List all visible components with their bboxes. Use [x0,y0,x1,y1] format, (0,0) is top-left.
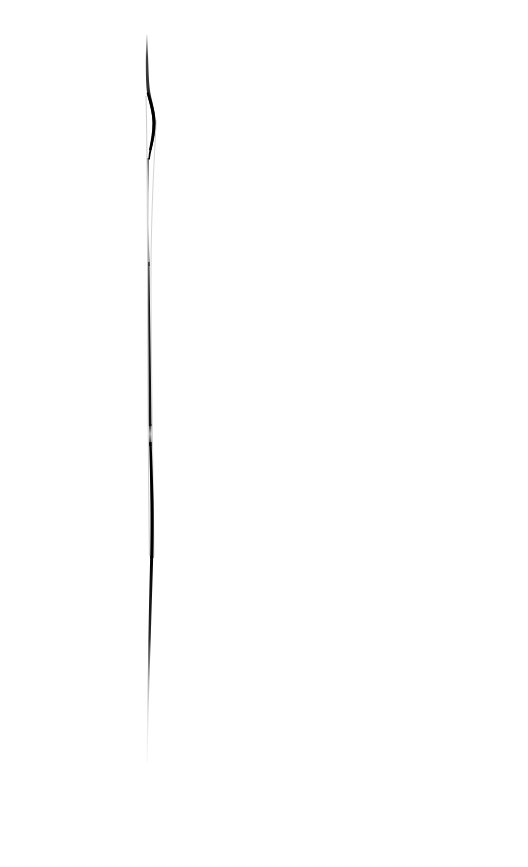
blank-region-bottom [140,768,162,867]
stroke-segment-upper-fade [148,158,150,266]
page-canvas [0,0,528,867]
blank-region-right [162,0,528,867]
stroke-bulge-core [147,92,156,150]
stroke-segment-tail [147,556,154,762]
blank-region-left [0,0,140,867]
stroke-segment-top-bulge [146,35,156,160]
